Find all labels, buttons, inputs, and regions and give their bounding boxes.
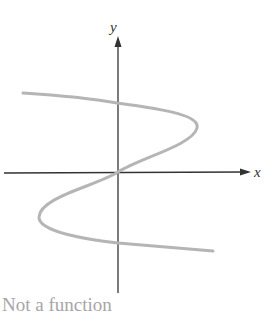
x-axis-label: x	[253, 164, 261, 180]
y-axis-label: y	[108, 19, 117, 35]
x-axis	[4, 172, 244, 173]
y-axis-arrow-icon	[115, 36, 122, 47]
figure-caption: Not a function	[2, 294, 112, 316]
x-axis-arrow-icon	[240, 169, 251, 176]
not-a-function-diagram: x y	[0, 0, 274, 323]
